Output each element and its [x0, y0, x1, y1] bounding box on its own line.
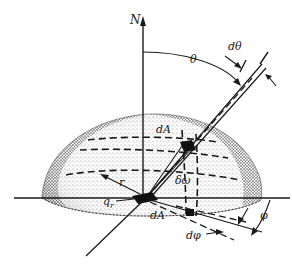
hemisphere-diagram: N θ dθ dA δω r dA qr — [0, 0, 292, 271]
label-solid-angle: δω — [175, 174, 191, 187]
label-north: N — [129, 13, 141, 27]
north-arrow-icon — [140, 16, 146, 26]
label-dtheta: dθ — [228, 40, 242, 53]
dtheta-tick-2 — [260, 52, 268, 64]
label-theta: θ — [190, 53, 197, 66]
label-phi: φ — [260, 209, 268, 222]
dA-projection — [186, 209, 194, 216]
dtheta-tick — [240, 60, 246, 72]
label-dA-top: dA — [156, 123, 171, 136]
label-radius: r — [119, 176, 125, 189]
theta-arrow-icon — [233, 78, 241, 86]
label-dA-center: dA — [150, 209, 165, 222]
label-dphi: dφ — [186, 229, 201, 242]
